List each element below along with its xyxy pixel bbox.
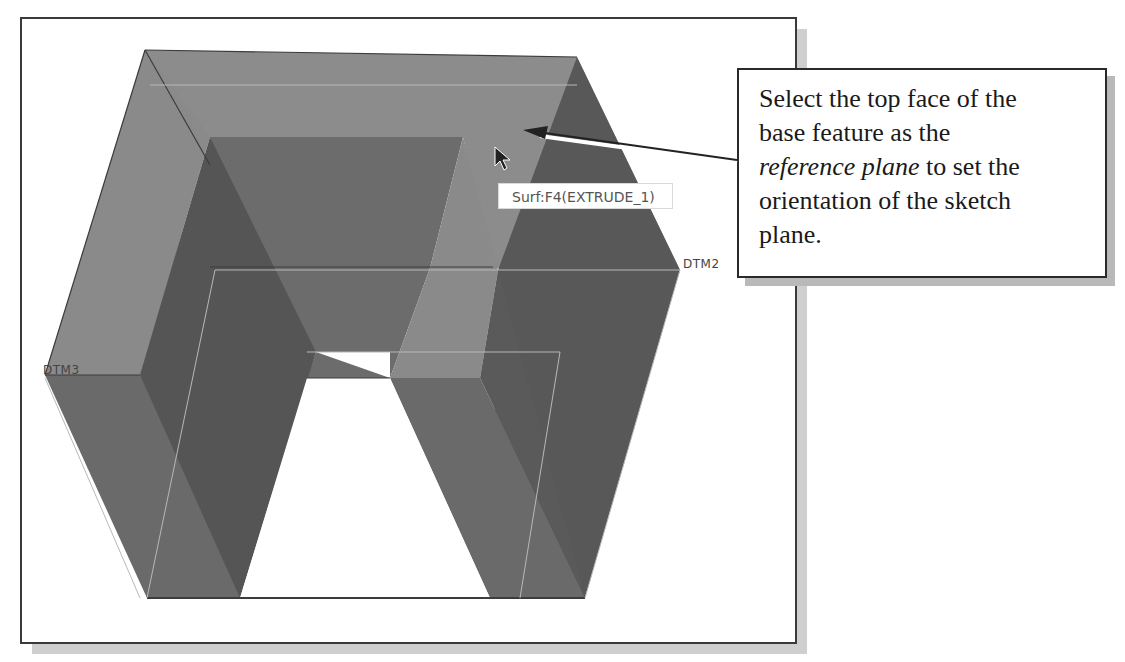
callout-line-1: Select the top face of the <box>759 82 1095 116</box>
graphics-viewport[interactable]: DTM3 DTM2 Surf:F4(EXTRUDE_1) <box>20 17 797 644</box>
mouse-cursor-icon <box>494 146 512 172</box>
callout-line-2: base feature as the <box>759 116 1095 150</box>
datum-label-dtm3: DTM3 <box>43 363 80 377</box>
datum-label-dtm2: DTM2 <box>683 257 720 271</box>
reference-plane-term: reference plane <box>759 152 920 181</box>
selection-tooltip: Surf:F4(EXTRUDE_1) <box>498 183 673 209</box>
instruction-callout: Select the top face of the base feature … <box>737 68 1107 278</box>
3d-model[interactable] <box>22 19 795 642</box>
callout-line-3: reference plane to set the <box>759 150 1095 184</box>
callout-line-5: plane. <box>759 218 1095 252</box>
callout-line-4: orientation of the sketch <box>759 184 1095 218</box>
